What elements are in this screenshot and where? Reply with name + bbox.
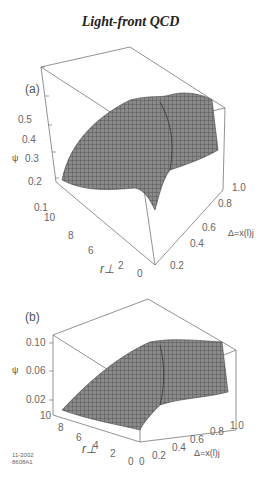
delta-tick: 0.8 (210, 426, 224, 437)
z-tick: 0.10 (26, 337, 45, 348)
figure-footnote: 11-2002 8608A1 (12, 452, 34, 466)
delta-tick: 0 (139, 456, 145, 467)
r-tick: 4 (93, 440, 99, 451)
r-tick: 6 (88, 245, 94, 256)
delta-axis-label: Δ=x(l)j (194, 448, 220, 458)
delta-tick: 0.2 (152, 450, 166, 461)
r-tick: 10 (40, 410, 51, 421)
r-tick: 8 (58, 422, 64, 433)
z-tick: 0.02 (26, 394, 45, 405)
z-axis-label: ψ (12, 365, 18, 375)
surface-plot-a (0, 40, 261, 275)
delta-tick: 1.0 (230, 420, 244, 431)
footnote-code: 8608A1 (12, 459, 34, 466)
page-header-title: Light-front QCD (0, 14, 261, 30)
panel-label-b: (b) (25, 310, 40, 324)
z-tick: 0.06 (26, 365, 45, 376)
r-tick: 0 (128, 456, 134, 467)
z-tick: 0.3 (25, 153, 39, 164)
z-tick: 0.2 (28, 176, 42, 187)
delta-tick: 1.0 (232, 182, 246, 193)
delta-tick: 0.6 (202, 222, 216, 233)
r-tick: 8 (68, 230, 74, 241)
figure-panel-b: (b) 0.10 ψ 0.06 0.02 10 8 6 r⊥ 4 2 0 0 0… (0, 270, 261, 470)
r-tick: 10 (44, 212, 55, 223)
z-axis-label: ψ (12, 153, 18, 163)
r-tick: 6 (76, 432, 82, 443)
r-tick: 2 (110, 448, 116, 459)
delta-tick: 0.4 (172, 442, 186, 453)
figure-panel-a: (a) 0.5 0.4 ψ 0.3 0.2 0.1 10 8 6 r⊥ 2 0 … (0, 40, 261, 275)
footnote-date: 11-2002 (12, 452, 34, 459)
delta-axis-label: Δ=x(l)j (228, 228, 254, 238)
panel-label-a: (a) (25, 82, 40, 96)
delta-tick: 0.6 (190, 434, 204, 445)
z-tick: 0.4 (22, 134, 36, 145)
delta-tick: 0.8 (218, 198, 232, 209)
delta-tick: 0.4 (190, 238, 204, 249)
z-tick: 0.5 (18, 114, 32, 125)
